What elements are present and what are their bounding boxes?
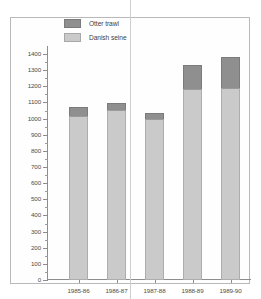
y-tick-label: 200 bbox=[31, 245, 41, 251]
x-tick-label: 1986-87 bbox=[105, 287, 127, 294]
bar-1989-90: 1989-90 bbox=[221, 57, 240, 281]
plot-area: 0100200300400500600700800900100011001200… bbox=[47, 46, 243, 280]
y-tick-major bbox=[43, 232, 48, 233]
x-tick-label: 1985-86 bbox=[67, 287, 89, 294]
y-tick-label: 400 bbox=[31, 212, 41, 218]
y-tick-label: 600 bbox=[31, 180, 41, 186]
y-tick-major bbox=[43, 264, 48, 265]
x-tick-label: 1987-88 bbox=[143, 287, 165, 294]
legend: Otter trawl Danish seine bbox=[64, 19, 127, 47]
y-tick-minor bbox=[45, 191, 48, 192]
y-tick-minor bbox=[45, 94, 48, 95]
legend-item-otter-trawl: Otter trawl bbox=[64, 19, 127, 28]
y-tick-label: 1400 bbox=[28, 51, 41, 57]
y-tick-major bbox=[43, 199, 48, 200]
y-tick-label: 1200 bbox=[28, 83, 41, 89]
bar-segment-otter-trawl bbox=[221, 57, 240, 88]
y-tick-minor bbox=[45, 111, 48, 112]
x-tick bbox=[155, 280, 156, 283]
y-tick-minor bbox=[45, 256, 48, 257]
bar-segment-danish-seine bbox=[107, 110, 126, 280]
y-tick-minor bbox=[45, 127, 48, 128]
legend-item-label: Otter trawl bbox=[89, 20, 119, 27]
bar-1987-88: 1987-88 bbox=[145, 113, 164, 280]
y-tick-label: 1100 bbox=[28, 99, 41, 105]
y-tick-minor bbox=[45, 62, 48, 63]
y-tick-label: 500 bbox=[31, 196, 41, 202]
y-tick-minor bbox=[45, 224, 48, 225]
y-tick-label: 0 bbox=[38, 277, 41, 283]
y-tick-minor bbox=[45, 207, 48, 208]
y-tick-major bbox=[43, 86, 48, 87]
y-tick-label: 300 bbox=[31, 228, 41, 234]
y-tick-major bbox=[43, 119, 48, 120]
bar-segment-danish-seine bbox=[145, 119, 164, 280]
bar-segment-danish-seine bbox=[221, 88, 240, 280]
legend-item-label: Danish seine bbox=[89, 34, 127, 41]
y-tick-label: 1000 bbox=[28, 116, 41, 122]
y-tick-minor bbox=[45, 272, 48, 273]
y-tick-label: 700 bbox=[31, 164, 41, 170]
y-tick-label: 100 bbox=[31, 261, 41, 267]
y-tick-major bbox=[43, 70, 48, 71]
y-tick-minor bbox=[45, 240, 48, 241]
bar-segment-danish-seine bbox=[69, 116, 88, 280]
y-tick-major bbox=[43, 54, 48, 55]
bar-segment-otter-trawl bbox=[183, 65, 202, 89]
y-tick-major bbox=[43, 248, 48, 249]
y-tick-minor bbox=[45, 78, 48, 79]
y-tick-major bbox=[43, 167, 48, 168]
bar-1986-87: 1986-87 bbox=[107, 103, 126, 280]
y-tick-minor bbox=[45, 159, 48, 160]
x-tick bbox=[193, 280, 194, 283]
y-tick-label: 1300 bbox=[28, 67, 41, 73]
y-axis-line bbox=[47, 46, 48, 280]
bar-1985-86: 1985-86 bbox=[69, 107, 88, 280]
x-tick bbox=[231, 280, 232, 283]
x-tick-label: 1988-89 bbox=[181, 287, 203, 294]
y-tick-major bbox=[43, 151, 48, 152]
legend-item-danish-seine: Danish seine bbox=[64, 33, 127, 42]
y-tick-minor bbox=[45, 143, 48, 144]
y-tick-major bbox=[43, 280, 48, 281]
y-tick-minor bbox=[45, 175, 48, 176]
bar-1988-89: 1988-89 bbox=[183, 65, 202, 280]
x-tick-label: 1989-90 bbox=[219, 287, 241, 294]
light-gray-swatch bbox=[64, 33, 81, 42]
y-tick-major bbox=[43, 135, 48, 136]
y-tick-label: 800 bbox=[31, 148, 41, 154]
bar-segment-danish-seine bbox=[183, 89, 202, 280]
y-tick-major bbox=[43, 183, 48, 184]
y-tick-major bbox=[43, 102, 48, 103]
x-tick bbox=[79, 280, 80, 283]
dark-gray-swatch bbox=[64, 19, 81, 28]
chart-frame: 0100200300400500600700800900100011001200… bbox=[10, 17, 250, 284]
y-tick-label: 900 bbox=[31, 132, 41, 138]
y-tick-major bbox=[43, 215, 48, 216]
x-tick bbox=[117, 280, 118, 283]
bar-segment-otter-trawl bbox=[69, 107, 88, 117]
